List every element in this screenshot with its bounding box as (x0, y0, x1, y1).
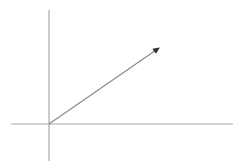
vector-arrow (49, 48, 159, 124)
vector-diagram (0, 0, 243, 167)
